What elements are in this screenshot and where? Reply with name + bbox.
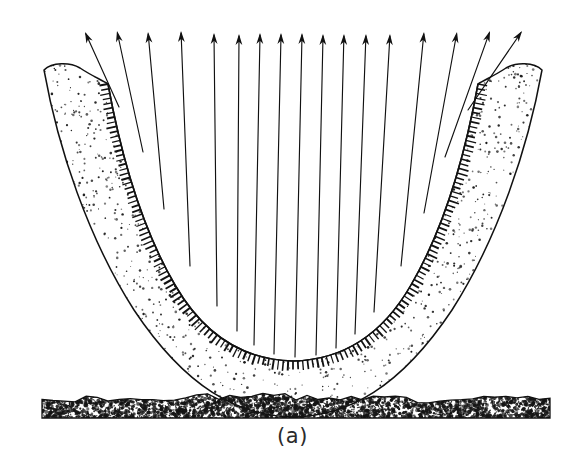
figure-drawing [0, 0, 587, 466]
figure-label-text: (a) [277, 424, 308, 448]
figure-container: (a) [0, 0, 587, 466]
figure-label: (a) [0, 424, 587, 448]
